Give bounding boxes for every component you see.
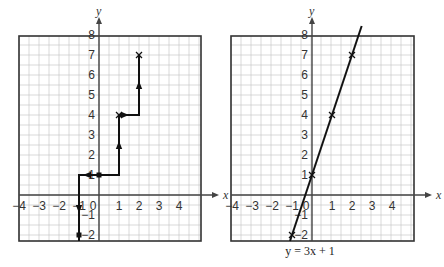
direction-arrow-left-icon xyxy=(83,172,91,178)
x-tick-label: −2 xyxy=(265,199,279,213)
y-tick-label: 7 xyxy=(301,48,308,62)
y-tick-label: 3 xyxy=(88,128,95,142)
y-tick-label: −1 xyxy=(81,208,95,222)
x-tick-label: −4 xyxy=(12,199,26,213)
y-axis-label: y xyxy=(308,4,315,18)
y-tick-label: 6 xyxy=(88,68,95,82)
y-tick-label: 8 xyxy=(301,28,308,42)
y-tick-label: 5 xyxy=(88,88,95,102)
y-tick-label: 6 xyxy=(301,68,308,82)
y-tick-label: 5 xyxy=(301,88,308,102)
x-tick-label: −3 xyxy=(32,199,46,213)
y-axis-arrow-icon xyxy=(309,17,315,24)
y-tick-label: 4 xyxy=(88,108,95,122)
x-axis-arrow-icon xyxy=(425,192,432,198)
graph-frame xyxy=(19,36,201,241)
x-tick-label: 4 xyxy=(389,199,396,213)
x-axis-arrow-icon xyxy=(212,192,219,198)
direction-arrow-right-icon xyxy=(121,112,129,118)
x-tick-label: 2 xyxy=(349,199,356,213)
y-tick-label: 2 xyxy=(301,148,308,162)
x-tick-label: −2 xyxy=(52,199,66,213)
x-tick-label: 1 xyxy=(116,199,123,213)
y-tick-label: 8 xyxy=(88,28,95,42)
x-tick-label: 4 xyxy=(176,199,183,213)
point-dot-icon xyxy=(77,233,82,238)
y-axis-label: y xyxy=(95,4,102,18)
point-dot-icon xyxy=(97,173,102,178)
y-tick-label: −2 xyxy=(81,228,95,242)
y-tick-label: 4 xyxy=(301,108,308,122)
x-tick-label: −4 xyxy=(225,199,239,213)
y-tick-label: 1 xyxy=(301,168,308,182)
graphs-figure: xy−4−3−2−10123412345678−1−2 xy−4−3−2−101… xyxy=(0,0,444,267)
x-tick-label: −3 xyxy=(245,199,259,213)
equation-caption: y = 3x + 1 xyxy=(285,244,335,258)
y-tick-label: 2 xyxy=(88,148,95,162)
grid xyxy=(19,36,201,241)
x-tick-label: 3 xyxy=(156,199,163,213)
y-axis-arrow-icon xyxy=(96,17,102,24)
x-axis-label: x xyxy=(435,188,442,202)
x-tick-label: 1 xyxy=(329,199,336,213)
y-tick-label: −2 xyxy=(294,228,308,242)
right-graph-line: xy−4−3−2−10123412345678−1−2y = 3x + 1 xyxy=(225,4,442,258)
y-tick-label: 3 xyxy=(301,128,308,142)
left-graph-staircase: xy−4−3−2−10123412345678−1−2 xyxy=(12,4,229,242)
y-tick-label: 7 xyxy=(88,48,95,62)
x-tick-label: 2 xyxy=(136,199,143,213)
x-tick-label: 3 xyxy=(369,199,376,213)
